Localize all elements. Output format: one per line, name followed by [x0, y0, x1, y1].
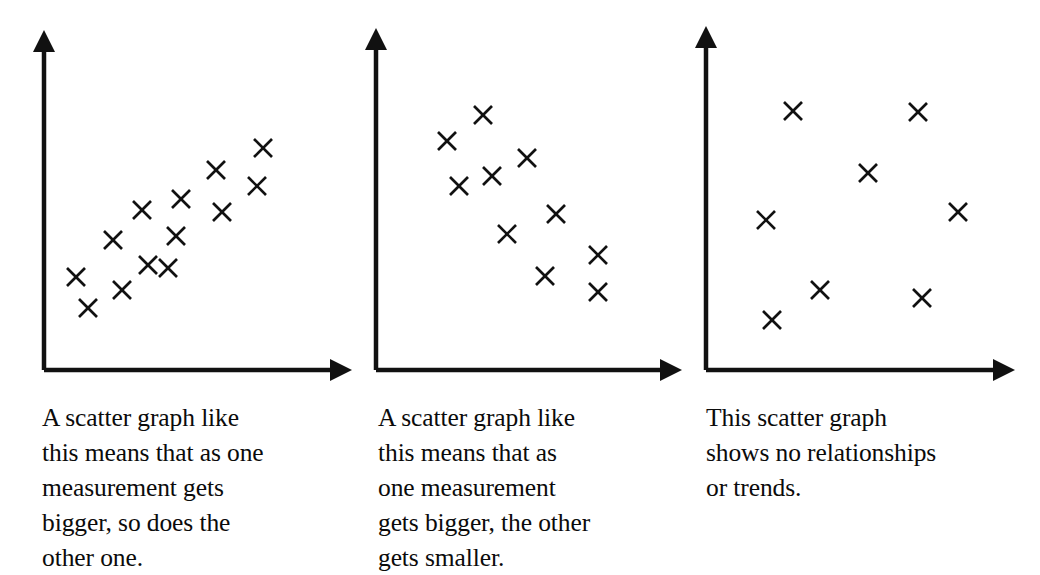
data-point-marker — [79, 299, 97, 317]
data-point-marker — [498, 225, 516, 243]
data-point-marker — [159, 259, 177, 277]
data-point-marker — [207, 161, 225, 179]
y-axis-arrowhead-icon — [695, 26, 717, 48]
data-point-marker — [139, 256, 157, 274]
caption-negative-correlation: A scatter graph like this means that as … — [378, 400, 693, 575]
data-point-marker — [757, 211, 775, 229]
data-point-marker — [536, 267, 554, 285]
data-point-marker — [248, 177, 266, 195]
scatter-plot-positive — [0, 0, 360, 390]
data-point-marker — [949, 203, 967, 221]
data-point-marker — [483, 167, 501, 185]
data-point-marker — [589, 246, 607, 264]
scatter-panel-positive: A scatter graph like this means that as … — [0, 0, 360, 575]
data-point-marker — [547, 205, 565, 223]
data-point-marker — [784, 102, 802, 120]
caption-no-correlation: This scatter graph shows no relationship… — [706, 400, 1040, 505]
axes-group — [33, 30, 352, 381]
marker-group — [757, 102, 967, 329]
caption-positive-correlation: A scatter graph like this means that as … — [42, 400, 362, 575]
marker-group — [67, 139, 272, 317]
data-point-marker — [172, 190, 190, 208]
data-point-marker — [67, 268, 85, 286]
data-point-marker — [763, 311, 781, 329]
data-point-marker — [438, 132, 456, 150]
marker-group — [438, 106, 607, 301]
data-point-marker — [913, 289, 931, 307]
data-point-marker — [589, 283, 607, 301]
x-axis-arrowhead-icon — [660, 359, 682, 381]
y-axis-arrowhead-icon — [365, 28, 387, 50]
data-point-marker — [859, 164, 877, 182]
data-point-marker — [167, 227, 185, 245]
scatter-plot-no-correlation — [690, 0, 1040, 390]
data-point-marker — [518, 149, 536, 167]
data-point-marker — [909, 103, 927, 121]
x-axis-arrowhead-icon — [993, 359, 1015, 381]
data-point-marker — [450, 177, 468, 195]
data-point-marker — [104, 231, 122, 249]
data-point-marker — [113, 281, 131, 299]
axes-group — [365, 28, 682, 381]
y-axis-arrowhead-icon — [33, 30, 55, 52]
data-point-marker — [213, 203, 231, 221]
scatter-plot-negative — [360, 0, 690, 390]
data-point-marker — [811, 281, 829, 299]
data-point-marker — [474, 106, 492, 124]
scatter-panel-none: This scatter graph shows no relationship… — [690, 0, 1040, 575]
data-point-marker — [254, 139, 272, 157]
x-axis-arrowhead-icon — [330, 359, 352, 381]
data-point-marker — [133, 201, 151, 219]
scatter-panel-negative: A scatter graph like this means that as … — [360, 0, 690, 575]
figure-root: A scatter graph like this means that as … — [0, 0, 1040, 575]
